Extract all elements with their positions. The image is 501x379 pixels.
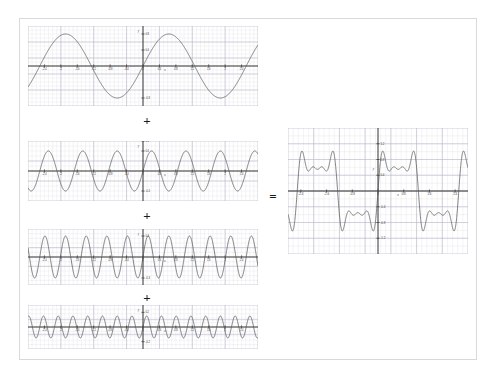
svg-text:-1.6: -1.6	[75, 67, 80, 71]
svg-text:2.4: 2.4	[240, 67, 244, 71]
svg-text:-2.4: -2.4	[298, 192, 303, 196]
svg-text:0.4: 0.4	[145, 149, 149, 153]
svg-text:-2: -2	[60, 172, 63, 176]
svg-text:2.4: 2.4	[240, 258, 244, 262]
svg-text:2: 2	[224, 172, 226, 176]
svg-text:-2: -2	[60, 67, 63, 71]
svg-text:-0.8: -0.8	[108, 172, 113, 176]
plot-harmonic-4: -2.4-2-1.6-1.2-0.8-0.400.40.81.21.622.4-…	[28, 305, 258, 349]
svg-text:y: y	[372, 167, 375, 171]
svg-text:x: x	[163, 173, 166, 177]
svg-text:-0.8: -0.8	[145, 96, 150, 100]
svg-text:0.4: 0.4	[158, 67, 162, 71]
svg-text:0.8: 0.8	[174, 328, 178, 332]
svg-text:x: x	[396, 193, 399, 197]
svg-text:-0.4: -0.4	[124, 258, 129, 262]
svg-text:y: y	[137, 308, 140, 312]
svg-text:0.4: 0.4	[380, 173, 384, 177]
svg-text:1.6: 1.6	[427, 192, 431, 196]
svg-text:-0.8: -0.8	[108, 67, 113, 71]
svg-text:1.6: 1.6	[207, 67, 211, 71]
svg-text:-0.3: -0.3	[145, 276, 150, 280]
operator-equals: =	[265, 190, 281, 203]
svg-text:0.6: 0.6	[145, 141, 149, 143]
svg-text:0.4: 0.4	[158, 258, 162, 262]
plot-harmonic-1: -2.4-2-1.6-1.2-0.8-0.400.40.81.21.622.4-…	[28, 26, 258, 106]
svg-text:y: y	[137, 232, 140, 236]
operator-plus-1: +	[139, 114, 155, 127]
plot-harmonic-3-canvas: -2.4-2-1.6-1.2-0.8-0.400.40.81.21.622.4-…	[28, 229, 258, 285]
svg-text:0.8: 0.8	[145, 32, 149, 36]
svg-text:-2.4: -2.4	[42, 67, 47, 71]
svg-text:1.2: 1.2	[190, 67, 194, 71]
svg-text:2: 2	[224, 67, 226, 71]
svg-text:-0.2: -0.2	[145, 340, 150, 344]
plot-sum-result: -2.4-1.6-0.800.81.62.4-1.2-0.8-0.40.40.8…	[288, 128, 468, 254]
svg-text:-1.2: -1.2	[380, 236, 385, 240]
svg-text:0: 0	[142, 67, 144, 71]
plot-harmonic-2: -2.4-2-1.6-1.2-0.8-0.400.40.81.21.622.4-…	[28, 141, 258, 201]
svg-text:1.2: 1.2	[190, 258, 194, 262]
svg-text:-1.6: -1.6	[75, 258, 80, 262]
svg-text:2.4: 2.4	[240, 172, 244, 176]
svg-text:-0.4: -0.4	[380, 205, 385, 209]
plot-sum-result-canvas: -2.4-1.6-0.800.81.62.4-1.2-0.8-0.40.40.8…	[288, 128, 468, 254]
svg-text:1.2: 1.2	[380, 142, 384, 146]
svg-text:1.6: 1.6	[207, 258, 211, 262]
svg-text:0.4: 0.4	[145, 48, 149, 52]
plot-harmonic-1-canvas: -2.4-2-1.6-1.2-0.8-0.400.40.81.21.622.4-…	[28, 26, 258, 106]
svg-text:2.4: 2.4	[240, 328, 244, 332]
svg-text:-1.6: -1.6	[75, 172, 80, 176]
svg-text:1.2: 1.2	[190, 328, 194, 332]
operator-plus-2: +	[139, 209, 155, 222]
svg-text:-2.4: -2.4	[42, 258, 47, 262]
svg-text:y: y	[137, 29, 140, 33]
svg-text:-1.6: -1.6	[324, 192, 329, 196]
svg-text:-2.4: -2.4	[42, 172, 47, 176]
svg-text:-2.4: -2.4	[42, 328, 47, 332]
svg-text:1.2: 1.2	[190, 172, 194, 176]
svg-text:0.8: 0.8	[174, 67, 178, 71]
svg-text:2.4: 2.4	[453, 192, 457, 196]
operator-plus-3: +	[139, 291, 155, 304]
figure-root: -2.4-2-1.6-1.2-0.8-0.400.40.81.21.622.4-…	[0, 0, 501, 379]
svg-text:0.8: 0.8	[402, 192, 406, 196]
plot-harmonic-2-canvas: -2.4-2-1.6-1.2-0.8-0.400.40.81.21.622.4-…	[28, 141, 258, 201]
svg-text:-0.4: -0.4	[145, 189, 150, 193]
svg-text:x: x	[163, 259, 166, 263]
svg-text:0.2: 0.2	[145, 310, 149, 314]
svg-text:-0.4: -0.4	[124, 67, 129, 71]
plot-harmonic-4-canvas: -2.4-2-1.6-1.2-0.8-0.400.40.81.21.622.4-…	[28, 305, 258, 349]
plot-harmonic-3: -2.4-2-1.6-1.2-0.8-0.400.40.81.21.622.4-…	[28, 229, 258, 285]
svg-text:0.4: 0.4	[158, 328, 162, 332]
svg-text:-0.8: -0.8	[380, 221, 385, 225]
svg-text:-0.8: -0.8	[350, 192, 355, 196]
